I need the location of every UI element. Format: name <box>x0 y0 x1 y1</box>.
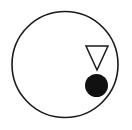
outer-circle <box>12 12 118 118</box>
filled-dot <box>85 74 108 97</box>
figure-svg <box>0 0 132 130</box>
figure-canvas <box>0 0 132 130</box>
